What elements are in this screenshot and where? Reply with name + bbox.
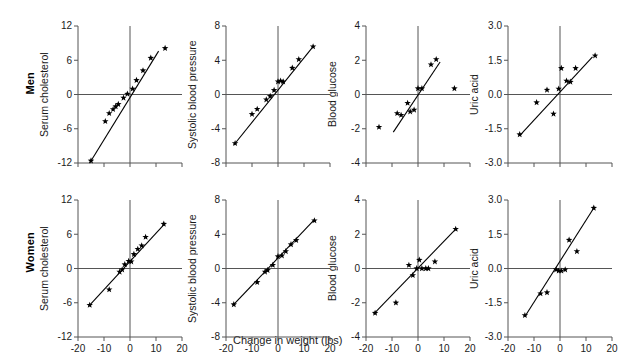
regression-line — [525, 208, 594, 316]
y-tick-label: -6 — [63, 297, 72, 308]
data-point-marker — [566, 237, 572, 243]
y-tick-label: 6 — [66, 55, 72, 66]
panel-men-serum-cholesterol: -12-60612Serum cholesterol — [42, 16, 188, 193]
y-tick-label: 0 — [66, 89, 72, 100]
y-tick-label: -1.5 — [485, 123, 503, 134]
data-point-marker — [591, 205, 597, 211]
data-point-marker — [544, 87, 550, 93]
y-tick-label: -1.5 — [485, 297, 503, 308]
panel-men-uric-acid: -3.0-1.50.01.53.0Uric acid — [472, 16, 618, 193]
y-tick-label: 4 — [214, 229, 220, 240]
panel-men-systolic-blood-pressure: -8-4048Systolic blood pressure — [190, 16, 336, 193]
y-tick-label: 0.0 — [488, 89, 502, 100]
x-tick-label: 10 — [438, 343, 450, 354]
y-tick-label: -4 — [211, 123, 220, 134]
regression-line — [520, 57, 593, 136]
y-axis-label: Blood glucose — [326, 24, 338, 165]
x-tick-label: 20 — [606, 343, 618, 354]
data-point-marker — [406, 262, 412, 268]
y-tick-label: -4 — [351, 331, 360, 342]
data-point-marker — [131, 251, 137, 257]
data-point-marker — [533, 99, 539, 105]
y-tick-label: -8 — [211, 157, 220, 168]
data-point-marker — [162, 45, 168, 51]
data-point-marker — [451, 85, 457, 91]
plot-area-women-uric-acid: -3.0-1.50.01.53.0-20-1001020 — [472, 190, 618, 356]
plot-area-men-serum-cholesterol: -12-60612 — [42, 16, 188, 193]
y-tick-label: 2 — [354, 55, 360, 66]
y-tick-label: 6 — [66, 229, 72, 240]
panel-women-systolic-blood-pressure: -8-4048-20-1001020Systolic blood pressur… — [190, 190, 336, 356]
data-point-marker — [254, 106, 260, 112]
x-tick-label: 0 — [557, 343, 563, 354]
y-tick-label: -12 — [58, 331, 73, 342]
data-point-marker — [544, 289, 550, 295]
row-label-women: Women — [24, 232, 36, 273]
data-point-marker — [516, 131, 522, 137]
data-point-marker — [270, 262, 276, 268]
x-tick-label: 10 — [150, 343, 162, 354]
regression-line — [393, 62, 440, 132]
data-point-marker — [283, 248, 289, 254]
y-tick-label: 8 — [214, 194, 220, 205]
x-tick-label: -10 — [385, 343, 400, 354]
x-tick-label: -20 — [359, 343, 374, 354]
y-axis-label: Uric acid — [468, 198, 480, 339]
x-tick-label: -20 — [501, 343, 516, 354]
data-point-marker — [267, 93, 273, 99]
y-axis-label: Systolic blood pressure — [186, 198, 198, 339]
figure-panel-grid: Men Women Change in weight (lbs) -12-606… — [0, 0, 642, 356]
y-tick-label: 0 — [214, 263, 220, 274]
y-tick-label: 0 — [354, 89, 360, 100]
y-axis-label: Systolic blood pressure — [186, 24, 198, 165]
data-point-marker — [254, 279, 260, 285]
y-tick-label: -3.0 — [485, 331, 503, 342]
data-point-marker — [558, 65, 564, 71]
y-tick-label: 2 — [354, 229, 360, 240]
plot-area-men-systolic-blood-pressure: -8-4048 — [190, 16, 336, 193]
y-tick-label: 12 — [61, 194, 73, 205]
y-tick-label: -4 — [211, 297, 220, 308]
y-axis-label: Uric acid — [468, 24, 480, 165]
regression-line — [90, 51, 159, 163]
data-point-marker — [138, 242, 144, 248]
data-point-marker — [376, 124, 382, 130]
y-tick-label: 1.5 — [488, 229, 502, 240]
data-point-marker — [550, 111, 556, 117]
regression-line — [234, 220, 315, 305]
y-tick-label: 8 — [214, 20, 220, 31]
x-tick-label: 20 — [176, 343, 188, 354]
y-tick-label: -8 — [211, 331, 220, 342]
y-tick-label: -6 — [63, 123, 72, 134]
plot-area-women-serum-cholesterol: -12-60612-20-1001020 — [42, 190, 188, 356]
x-tick-label: 0 — [415, 343, 421, 354]
x-tick-label: 0 — [275, 343, 281, 354]
regression-line — [234, 46, 314, 145]
x-tick-label: 10 — [580, 343, 592, 354]
x-tick-label: -10 — [97, 343, 112, 354]
y-tick-label: -3.0 — [485, 157, 503, 168]
y-tick-label: -4 — [351, 157, 360, 168]
y-tick-label: 4 — [354, 20, 360, 31]
y-tick-label: -12 — [58, 157, 73, 168]
data-point-marker — [102, 118, 108, 124]
panel-women-blood-glucose: -4-2024-20-1001020Blood glucose — [330, 190, 476, 356]
panel-women-uric-acid: -3.0-1.50.01.53.0-20-1001020Uric acid — [472, 190, 618, 356]
data-point-marker — [404, 100, 410, 106]
plot-area-women-blood-glucose: -4-2024-20-1001020 — [330, 190, 476, 356]
y-tick-label: 0 — [66, 263, 72, 274]
y-tick-label: -2 — [351, 297, 360, 308]
data-point-marker — [310, 43, 316, 49]
y-tick-label: 1.5 — [488, 55, 502, 66]
x-tick-label: -10 — [527, 343, 542, 354]
plot-area-men-uric-acid: -3.0-1.50.01.53.0 — [472, 16, 618, 193]
y-tick-label: 0 — [214, 89, 220, 100]
y-tick-label: 4 — [214, 55, 220, 66]
x-tick-label: 10 — [298, 343, 310, 354]
row-label-men: Men — [24, 72, 36, 95]
data-point-marker — [293, 237, 299, 243]
y-axis-label: Blood glucose — [326, 198, 338, 339]
data-point-marker — [432, 258, 438, 264]
y-axis-label: Serum cholesterol — [38, 198, 50, 339]
y-tick-label: 3.0 — [488, 194, 502, 205]
